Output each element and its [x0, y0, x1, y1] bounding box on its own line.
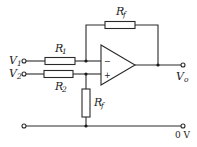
inverting-input-sign: −: [104, 57, 111, 66]
v2-terminal: [22, 72, 26, 76]
svg-text:2: 2: [16, 72, 22, 81]
resistor-rf-ground: [82, 89, 90, 117]
vo-terminal: [181, 63, 185, 67]
non-inverting-input-sign: +: [104, 71, 111, 80]
circuit-diagram: − + V 1 V 2 R 1 R 2 R f R f V o 0 V: [0, 0, 197, 147]
junction-dot-noninverting: [84, 72, 87, 75]
label-ground-0v: 0 V: [175, 130, 191, 140]
svg-text:f: f: [122, 10, 127, 19]
resistor-r2: [44, 71, 73, 78]
label-vo: V o: [176, 70, 189, 84]
v1-terminal: [22, 59, 26, 63]
resistor-r1: [45, 58, 75, 65]
junction-dot-ground: [84, 124, 87, 127]
svg-text:1: 1: [17, 59, 22, 68]
svg-text:f: f: [100, 101, 105, 110]
label-r1: R 1: [54, 42, 67, 56]
junction-dot-inverting: [84, 59, 87, 62]
svg-text:2: 2: [61, 85, 67, 94]
v1-branch: [22, 58, 101, 65]
svg-text:1: 1: [62, 47, 67, 56]
label-r2: R 2: [54, 80, 67, 94]
v2-branch: [22, 71, 101, 78]
ground-terminal-left: [22, 124, 26, 128]
svg-text:o: o: [184, 75, 189, 84]
label-v2: V 2: [9, 67, 22, 81]
junction-dot-output: [156, 63, 159, 66]
label-rf-ground: R f: [93, 96, 105, 110]
ground-terminal-right: [181, 124, 185, 128]
ground-resistor-branch: [82, 74, 90, 126]
label-v1: V 1: [9, 54, 22, 68]
resistor-rf-feedback: [105, 22, 135, 29]
label-rf-feedback: R f: [115, 5, 127, 19]
